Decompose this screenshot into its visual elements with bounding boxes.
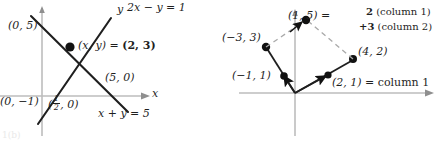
line-x-plus-y-equals-5 — [31, 16, 128, 112]
point-label-sum: (1, 5) = — [288, 10, 330, 21]
vector-sum-arrow-segment — [290, 22, 302, 32]
vector-column1-arrow-segment — [295, 76, 326, 93]
combination-coefficient-1: 2 — [366, 6, 373, 17]
combination-coefficient-2: +3 — [359, 21, 374, 32]
point-dot-minus1-1 — [280, 72, 288, 80]
sum-equals-text: = — [318, 9, 331, 22]
point-dot-2-1 — [324, 71, 331, 78]
equation-label-line1: 2x − y = 1 — [127, 2, 186, 13]
column-picture-panel: (1, 5) = 2 (column 1) +3 (column 2) (−3,… — [222, 0, 445, 142]
solution-label-lhs: (x, y) = — [78, 39, 122, 52]
x-intercept-open-paren: ( — [48, 98, 52, 111]
intersection-point-dot — [65, 42, 74, 51]
point-label-y-intercept-line2: (0, 5) — [8, 20, 38, 31]
horizontal-axis-arrowhead — [425, 90, 434, 97]
figure-root: y x 2x − y = 1 x + y = 5 (0, 5) (0, −1) … — [0, 0, 445, 142]
point-label-x-intercept-line1: (12, 0) — [48, 95, 79, 112]
solution-label-value: (2, 3) — [122, 39, 155, 52]
combination-text-2: (column 2) — [374, 21, 432, 32]
equation-label-line2: x + y = 5 — [98, 108, 150, 119]
column1-point-text: (2, 1) — [332, 76, 362, 89]
point-label-x-intercept-line2: (5, 0) — [105, 72, 135, 83]
point-label-column1: (2, 1) = column 1 — [332, 77, 429, 88]
point-label-column2: (−1, 1) — [232, 70, 271, 81]
combination-text-1: (column 1) — [373, 6, 431, 17]
dashed-edge-from-4-2 — [308, 21, 353, 59]
point-label-y-intercept-line1: (0, −1) — [0, 96, 39, 107]
axis-label-y: y — [117, 4, 123, 15]
column1-equals-text: = column 1 — [362, 76, 430, 89]
sum-point-text: (1, 5) — [288, 9, 318, 22]
combination-line-1: 2 (column 1) — [366, 7, 431, 17]
x-axis-arrowhead — [141, 93, 150, 100]
combination-line-2: +3 (column 2) — [359, 22, 432, 32]
x-intercept-close: , 0) — [60, 98, 78, 111]
solution-label: (x, y) = (2, 3) — [78, 40, 156, 51]
one-half-fraction: 12 — [53, 95, 60, 112]
point-label-column1-scaled: (4, 2) — [358, 46, 388, 57]
fraction-denominator: 2 — [53, 104, 60, 112]
row-picture-panel: y x 2x − y = 1 x + y = 5 (0, 5) (0, −1) … — [0, 0, 222, 142]
cropped-caption-text: 1(b) — [2, 131, 21, 140]
axis-label-x: x — [152, 88, 158, 99]
point-label-column2-scaled: (−3, 3) — [222, 32, 261, 43]
y-axis-arrowhead — [39, 6, 45, 13]
